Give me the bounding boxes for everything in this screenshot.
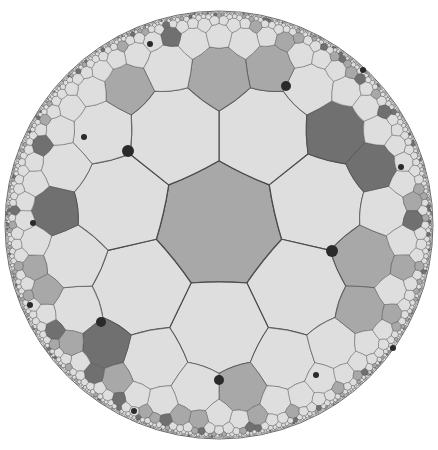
heptagon-tile [416, 148, 418, 150]
heptagon-tile [427, 185, 428, 186]
heptagon-tile [170, 431, 171, 432]
heptagon-tile [214, 436, 216, 438]
heptagon-tile [329, 404, 331, 406]
heptagon-tile [44, 346, 46, 348]
heptagon-tile [350, 391, 351, 392]
heptagon-tile [408, 321, 410, 323]
heptagon-tile [412, 136, 413, 137]
heptagon-tile [210, 12, 211, 13]
heptagon-tile [430, 242, 431, 243]
heptagon-tile [371, 372, 372, 373]
heptagon-tile [32, 327, 33, 328]
heptagon-tile [424, 173, 426, 175]
heptagon-tile [401, 333, 402, 334]
heptagon-tile [183, 434, 184, 435]
heptagon-tile [222, 436, 224, 438]
heptagon-tile [77, 383, 78, 384]
vertex-dot [313, 372, 319, 378]
heptagon-tile [152, 22, 154, 24]
vertex-dot [326, 245, 338, 257]
heptagon-tile [113, 408, 115, 410]
heptagon-tile [7, 197, 9, 199]
heptagon-tile [319, 37, 320, 38]
heptagon-tile [305, 418, 307, 420]
heptagon-tile [291, 423, 293, 425]
vertex-dot [214, 375, 224, 385]
heptagon-tile [414, 307, 416, 309]
heptagon-tile [422, 166, 424, 168]
heptagon-tile [430, 238, 432, 240]
heptagon-tile [9, 189, 10, 191]
heptagon-tile [424, 279, 425, 280]
heptagon-tile [71, 377, 73, 379]
heptagon-tiles [6, 12, 433, 439]
heptagon-tile [430, 246, 431, 247]
heptagon-tile [425, 270, 427, 272]
heptagon-tile [419, 155, 420, 156]
heptagon-tile [15, 287, 17, 289]
heptagon-tile [284, 427, 285, 428]
heptagon-tile [213, 12, 215, 14]
heptagon-tile [65, 372, 66, 373]
heptagon-tile [176, 433, 177, 434]
heptagon-tile [216, 12, 218, 14]
heptagon-tile [12, 173, 14, 175]
heptagon-tile [321, 408, 324, 411]
heptagon-tile [120, 36, 122, 38]
heptagon-tile [8, 251, 10, 253]
heptagon-tile [358, 64, 360, 66]
heptagon-tile [246, 435, 248, 437]
heptagon-tile [157, 427, 159, 429]
vertex-dot [390, 345, 396, 351]
heptagon-tile [145, 25, 146, 27]
heptagon-tile [67, 374, 68, 375]
heptagon-tile [302, 29, 303, 30]
heptagon-tile [159, 20, 160, 21]
heptagon-tile [288, 425, 290, 427]
heptagon-tile [353, 389, 354, 390]
heptagon-tile [11, 270, 13, 272]
heptagon-tile [335, 46, 337, 48]
heptagon-tile [419, 291, 421, 293]
vertex-dot [27, 302, 33, 308]
heptagon-tile [431, 233, 433, 235]
heptagon-tile [330, 43, 331, 44]
heptagon-tile [310, 33, 312, 35]
heptagon-tile [271, 430, 273, 432]
heptagon-tile [6, 243, 7, 244]
hyperbolic-tiling-svg [0, 0, 438, 450]
heptagon-tile [255, 433, 257, 435]
heptagon-tile [270, 18, 272, 20]
heptagon-tile [52, 357, 54, 359]
heptagon-tile [84, 60, 87, 63]
heptagon-tile [17, 291, 19, 293]
vertex-dot [81, 134, 87, 140]
heptagon-tile [127, 416, 129, 418]
heptagon-tile [247, 14, 248, 15]
heptagon-tile [35, 116, 36, 117]
heptagon-tile [290, 24, 291, 25]
heptagon-tile [426, 180, 428, 182]
heptagon-tile [187, 14, 189, 16]
heptagon-tile [47, 98, 48, 99]
heptagon-tile [210, 437, 211, 438]
heptagon-tile [405, 123, 407, 125]
heptagon-tile [297, 27, 299, 29]
heptagon-tile [252, 434, 254, 436]
heptagon-tile [6, 222, 8, 224]
heptagon-tile [396, 108, 398, 110]
heptagon-tile [175, 16, 177, 18]
heptagon-tile [226, 12, 227, 13]
heptagon-tile [396, 341, 397, 342]
vertex-dot [96, 317, 106, 327]
heptagon-tile [9, 258, 12, 261]
heptagon-tile [6, 214, 8, 216]
heptagon-tile [394, 105, 396, 107]
heptagon-tile [411, 134, 413, 136]
heptagon-tile [311, 414, 313, 416]
heptagon-tile [32, 123, 34, 125]
heptagon-tile [45, 101, 47, 103]
heptagon-tile [205, 436, 207, 437]
heptagon-tile [8, 191, 10, 193]
heptagon-tile [49, 96, 51, 98]
